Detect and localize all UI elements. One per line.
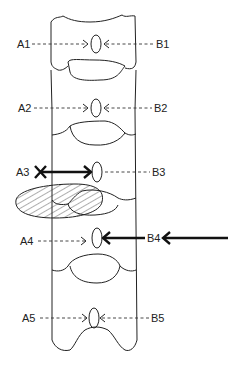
- label-b5: B5: [151, 312, 164, 324]
- label-a3: A3: [16, 166, 29, 178]
- disc-2: [70, 126, 125, 145]
- label-b3: B3: [152, 166, 165, 178]
- disc-4: [70, 266, 120, 283]
- label-b2: B2: [154, 102, 167, 114]
- labels-right: B1 B2 B3 B4 B5: [147, 38, 169, 324]
- spine-diagram: A1 A2 A3 A4 A5 B1 B2 B3 B4 B5: [0, 0, 239, 367]
- foramen-5: [89, 308, 99, 328]
- label-b1: B1: [156, 38, 169, 50]
- herniation-ellipse: [16, 184, 103, 218]
- foramina: [89, 35, 102, 328]
- disc-1: [68, 60, 125, 81]
- labels-left: A1 A2 A3 A4 A5: [16, 38, 35, 324]
- label-a5: A5: [22, 312, 35, 324]
- label-a2: A2: [18, 102, 31, 114]
- label-a1: A1: [17, 38, 30, 50]
- foramen-1: [91, 35, 101, 53]
- arrows: [32, 40, 228, 322]
- label-b4: B4: [147, 232, 160, 244]
- foramen-3: [92, 162, 102, 182]
- vertebral-column: [16, 15, 137, 351]
- label-a4: A4: [20, 235, 33, 247]
- foramen-4: [92, 228, 102, 248]
- foramen-2: [91, 99, 101, 117]
